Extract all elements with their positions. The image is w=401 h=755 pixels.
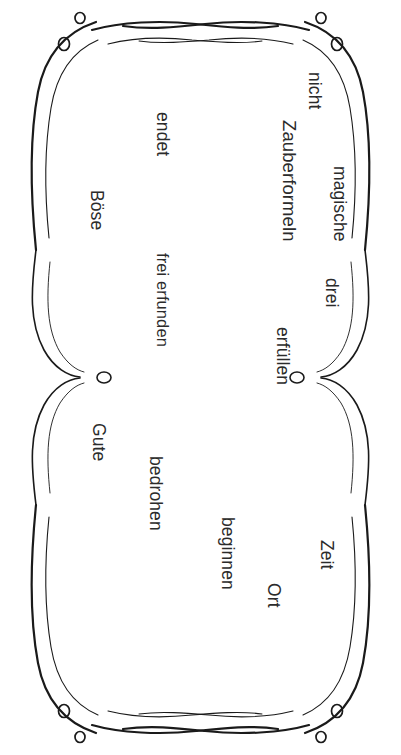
worksheet-sheet: magische Zauberformeln nicht drei erfüll… [0, 0, 401, 755]
ornamental-border-frame [0, 0, 401, 755]
word-nicht: nicht [306, 72, 324, 109]
word-beginnen: beginnen [219, 517, 237, 590]
word-erfuellen: erfüllen [274, 327, 292, 385]
word-boese: Böse [88, 190, 106, 230]
word-bedrohen: bedrohen [147, 456, 165, 531]
word-endet: endet [154, 112, 172, 156]
corner-flourish-bottom-right [32, 505, 278, 743]
word-gute: Gute [90, 423, 108, 461]
word-magische: magische [331, 166, 349, 242]
word-zauberformeln: Zauberformeln [280, 120, 299, 242]
word-ort: Ort [265, 583, 283, 608]
word-frei-erfunden: frei erfunden [155, 253, 172, 347]
word-zeit: Zeit [318, 540, 336, 570]
edge-flourish-bottom-center [32, 250, 111, 505]
word-drei: drei [323, 278, 341, 308]
document-page: magische Zauberformeln nicht drei erfüll… [0, 0, 401, 755]
